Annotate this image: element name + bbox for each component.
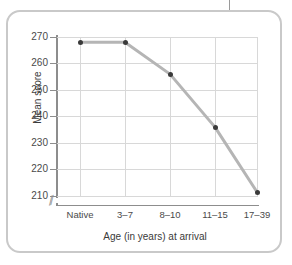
chart-figure: 270 260 250 240 230 220 210 ⁄⁄ Mean scor…	[0, 0, 292, 265]
y-tick-label-220: 220	[4, 164, 48, 174]
plot-area	[57, 37, 258, 196]
data-point-3	[168, 72, 173, 77]
data-point-1	[78, 40, 83, 45]
x-axis-line	[57, 205, 259, 206]
y-axis-title: Mean score	[32, 53, 43, 143]
x-axis-title: Age (in years) at arrival	[40, 231, 270, 242]
y-tick-label-270: 270	[4, 32, 48, 42]
gridline-h-210	[57, 196, 258, 197]
x-tick-label-17-39: 17–39	[227, 209, 287, 220]
data-point-2	[123, 40, 128, 45]
y-tick-label-210: 210	[4, 191, 48, 201]
data-point-4	[213, 125, 218, 130]
series-polyline	[57, 37, 258, 196]
data-point-5	[255, 190, 260, 195]
